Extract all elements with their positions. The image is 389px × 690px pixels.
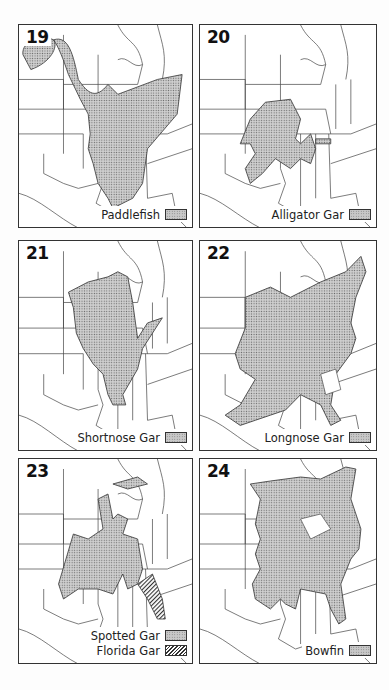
map-legend: Spotted Gar Florida Gar [88,627,187,658]
map-panel-19: 19 Paddlefish [18,24,193,228]
us-basemap [200,241,376,450]
legend-item-paddlefish: Paddlefish [101,207,187,222]
legend-item-shortnose-gar: Shortnose Gar [77,430,187,445]
us-basemap [200,459,376,663]
legend-label: Longnose Gar [264,431,344,445]
legend-item-longnose-gar: Longnose Gar [264,430,371,445]
legend-label: Bowfin [305,644,344,658]
alligator-gar-range [240,99,331,183]
stipple-swatch-icon [349,432,371,443]
legend-label: Shortnose Gar [77,431,160,445]
legend-label: Paddlefish [101,208,160,222]
legend-item-spotted-gar: Spotted Gar [91,628,187,643]
spotted-gar-range [59,477,148,599]
map-number: 19 [24,28,51,46]
legend-item-florida-gar: Florida Gar [91,643,187,658]
us-basemap [19,25,192,227]
map-panel-23: 23 Spotted Gar Florida Gar [18,458,193,664]
longnose-gar-range [225,256,366,425]
shortnose-gar-range [68,272,162,405]
stipple-swatch-icon [165,432,187,443]
map-panel-21: 21 Shortnose Gar [18,240,193,451]
map-legend: Paddlefish [98,206,187,222]
map-number: 21 [24,244,51,262]
legend-label: Florida Gar [97,644,160,658]
map-panel-20: 20 Alligator Gar [199,24,377,228]
us-basemap [19,241,192,450]
map-number: 22 [205,244,232,262]
map-legend: Shortnose Gar [74,429,187,445]
stipple-swatch-icon [165,630,187,641]
stipple-swatch-icon [349,209,371,220]
florida-gar-range [138,574,166,619]
legend-label: Alligator Gar [272,208,344,222]
legend-item-alligator-gar: Alligator Gar [272,207,371,222]
legend-label: Spotted Gar [91,629,160,643]
map-legend: Alligator Gar [269,206,371,222]
map-number: 23 [24,462,51,480]
stipple-swatch-icon [165,209,187,220]
legend-item-bowfin: Bowfin [305,643,371,658]
map-legend: Bowfin [302,642,371,658]
paddlefish-range [23,38,182,208]
hatch-swatch-icon [165,645,187,656]
map-panel-24: 24 Bowfin [199,458,377,664]
stipple-swatch-icon [349,645,371,656]
map-panel-22: 22 Longnose Gar [199,240,377,451]
map-number: 20 [205,28,232,46]
map-number: 24 [205,462,232,480]
map-legend: Longnose Gar [261,429,371,445]
bowfin-range [250,467,361,624]
us-basemap [200,25,376,227]
